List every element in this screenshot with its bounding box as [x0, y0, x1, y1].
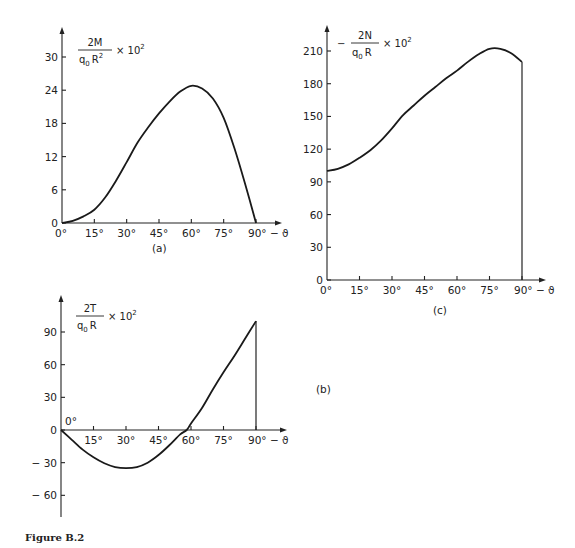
x-tick-label: 75°: [214, 227, 233, 239]
x-tick-label: 75°: [480, 284, 499, 296]
y-axis-arrow-icon: [59, 295, 64, 302]
chart-panel-a: 06121824300°15°30°45°60°75°90° − ϑ2Mq0R2…: [45, 27, 289, 254]
panel-label: (a): [152, 242, 167, 254]
panel-label: (b): [316, 383, 331, 395]
y-label-numerator: 2N: [358, 30, 372, 41]
x-tick-label: 0°: [55, 227, 67, 239]
y-tick-label: 90: [44, 326, 57, 338]
x-axis-arrow-icon: [539, 278, 546, 283]
y-tick-label: 0: [50, 424, 57, 436]
y-label-prefix: −: [337, 38, 345, 49]
y-tick-label: 210: [303, 45, 323, 57]
x-tick-label: 15°: [84, 434, 103, 446]
multiplier-exponent: 2: [132, 309, 136, 317]
chart-panel-b: − 60− 3003060900°15°30°45°60°75°90° − ϑ2…: [32, 295, 331, 517]
multiplier-exponent: 2: [140, 43, 144, 51]
x-tick-label: 30°: [117, 227, 136, 239]
y-tick-label: 12: [45, 151, 58, 163]
y-tick-label: 120: [303, 143, 323, 155]
y-tick-label: 30: [45, 51, 58, 63]
multiplier-base: × 10: [116, 45, 140, 56]
y-tick-label: 30: [44, 391, 57, 403]
x-tick-label: 75°: [214, 434, 233, 446]
x-tick-label: 60°: [448, 284, 467, 296]
y-tick-label: 180: [303, 78, 323, 90]
x-tick-label: 30°: [383, 284, 402, 296]
x-tick-label: 90° − ϑ: [248, 227, 289, 239]
y-label-denominator: q0R: [77, 320, 97, 334]
y-axis-arrow-icon: [325, 25, 330, 32]
panel-label: (c): [433, 304, 447, 316]
x-tick-label: 90° − ϑ: [248, 434, 289, 446]
x-tick-label: 90° − ϑ: [514, 284, 555, 296]
data-series-line: [327, 48, 522, 171]
y-tick-label: 18: [45, 117, 58, 129]
y-label-numerator: 2T: [84, 303, 97, 314]
denominator-rest: R: [365, 47, 372, 58]
x-tick-label: 0°: [320, 284, 332, 296]
x-tick-label: 30°: [117, 434, 136, 446]
denominator-superscript: 2: [99, 52, 103, 60]
x-tick-label: 45°: [149, 434, 168, 446]
x-axis-arrow-icon: [275, 221, 282, 226]
figure-canvas: 06121824300°15°30°45°60°75°90° − ϑ2Mq0R2…: [0, 0, 575, 548]
y-tick-label: 30: [310, 241, 323, 253]
y-tick-label: 90: [310, 176, 323, 188]
y-label-denominator: q0R2: [79, 52, 103, 68]
denominator-subscript: 0: [83, 326, 87, 334]
chart-panel-c: 03060901201501802100°15°30°45°60°75°90° …: [303, 25, 555, 316]
x-tick-label: 15°: [350, 284, 369, 296]
y-tick-label: − 30: [32, 457, 58, 469]
multiplier-base: × 10: [383, 38, 407, 49]
y-tick-label: − 60: [32, 489, 58, 501]
y-axis-arrow-icon: [60, 27, 65, 34]
y-label-denominator: q0R: [352, 47, 372, 61]
y-tick-label: 60: [44, 359, 57, 371]
denominator-subscript: 0: [358, 53, 362, 61]
x-tick-label: 45°: [415, 284, 434, 296]
y-label-multiplier: × 102: [108, 309, 137, 322]
x-tick-label: 15°: [85, 227, 104, 239]
y-label-multiplier: × 102: [116, 43, 145, 56]
denominator-rest: R: [92, 54, 99, 65]
data-series-line: [61, 321, 256, 468]
denominator-rest: R: [90, 320, 97, 331]
denominator-subscript: 0: [85, 60, 89, 68]
x-tick-label: 60°: [182, 227, 201, 239]
y-label-multiplier: × 102: [383, 36, 412, 49]
y-axis-label: 2Tq0R× 102: [76, 303, 137, 334]
x-tick-label: 0°: [65, 415, 77, 427]
x-tick-label: 60°: [182, 434, 201, 446]
y-tick-label: 60: [310, 209, 323, 221]
y-axis-label: 2Mq0R2× 102: [78, 37, 145, 68]
figure-caption: Figure B.2: [25, 532, 84, 543]
data-series-line: [62, 86, 256, 223]
y-label-numerator: 2M: [88, 37, 103, 48]
multiplier-base: × 10: [108, 311, 132, 322]
y-tick-label: 24: [45, 84, 59, 96]
y-tick-label: 150: [303, 110, 323, 122]
y-axis-label: −2Nq0R× 102: [337, 30, 412, 61]
x-axis-arrow-icon: [280, 428, 287, 433]
x-tick-label: 45°: [150, 227, 169, 239]
y-tick-label: 6: [51, 184, 58, 196]
multiplier-exponent: 2: [407, 36, 411, 44]
